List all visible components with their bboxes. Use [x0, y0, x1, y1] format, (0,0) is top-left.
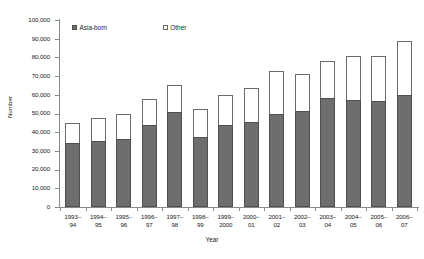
x-axis-tick: [366, 207, 367, 211]
bar-segment-other[interactable]: [65, 123, 80, 144]
x-axis-tick: [86, 207, 87, 211]
bar-segment-other[interactable]: [193, 109, 208, 137]
bar-stack[interactable]: [116, 114, 131, 207]
bar-stack[interactable]: [346, 56, 361, 207]
bar-segment-asia-born[interactable]: [91, 141, 106, 207]
bar-segment-other[interactable]: [116, 114, 131, 139]
x-axis-tick-label: 2006– 07: [387, 213, 421, 229]
bar-stack[interactable]: [193, 109, 208, 207]
bar-segment-asia-born[interactable]: [142, 125, 157, 207]
bar-segment-other[interactable]: [269, 71, 284, 113]
bar-stack[interactable]: [142, 99, 157, 207]
bar-stack[interactable]: [269, 71, 284, 207]
x-axis-tick: [213, 207, 214, 211]
x-axis-tick: [417, 207, 418, 211]
bar-segment-asia-born[interactable]: [346, 100, 361, 207]
bar-segment-other[interactable]: [397, 41, 412, 95]
bar-segment-asia-born[interactable]: [295, 111, 310, 207]
bar-segment-asia-born[interactable]: [371, 101, 386, 207]
y-axis-tick-label: 80,000: [4, 54, 50, 60]
bar-series-group: [60, 20, 417, 207]
y-axis-tick-label: 40,000: [4, 129, 50, 135]
bar-segment-other[interactable]: [320, 61, 335, 97]
y-axis-tick-label: 90,000: [4, 36, 50, 42]
x-axis-tick: [264, 207, 265, 211]
x-axis-tick: [315, 207, 316, 211]
bar-segment-asia-born[interactable]: [65, 143, 80, 207]
y-axis-tick-label: 50,000: [4, 110, 50, 116]
bar-segment-other[interactable]: [91, 118, 106, 140]
bar-stack[interactable]: [397, 41, 412, 207]
bar-segment-other[interactable]: [371, 56, 386, 101]
bar-segment-asia-born[interactable]: [193, 137, 208, 207]
x-axis-tick: [111, 207, 112, 211]
bar-stack[interactable]: [65, 123, 80, 207]
bar-segment-other[interactable]: [346, 56, 361, 100]
y-axis-tick-label: 70,000: [4, 73, 50, 79]
x-axis-tick: [60, 207, 61, 211]
x-axis-tick: [239, 207, 240, 211]
bar-segment-other[interactable]: [244, 88, 259, 122]
bar-segment-asia-born[interactable]: [244, 122, 259, 207]
bar-stack[interactable]: [91, 118, 106, 207]
x-axis-title: Year: [0, 236, 424, 243]
chart-container: Asia-born Other Number 100,00090,00080,0…: [0, 0, 424, 259]
bar-segment-other[interactable]: [218, 95, 233, 125]
y-axis-tick-label: 10,000: [4, 185, 50, 191]
bar-stack[interactable]: [167, 85, 182, 207]
bar-stack[interactable]: [218, 95, 233, 207]
bar-segment-asia-born[interactable]: [116, 139, 131, 207]
bar-segment-asia-born[interactable]: [269, 114, 284, 208]
y-axis-tick-label: 30,000: [4, 148, 50, 154]
y-axis-tick-label: 60,000: [4, 92, 50, 98]
bar-stack[interactable]: [320, 61, 335, 207]
x-axis-tick: [392, 207, 393, 211]
bar-stack[interactable]: [244, 88, 259, 207]
bar-segment-other[interactable]: [142, 99, 157, 125]
bar-segment-asia-born[interactable]: [320, 98, 335, 207]
bar-segment-other[interactable]: [295, 74, 310, 110]
y-axis-tick-label: 20,000: [4, 166, 50, 172]
y-axis-tick-label: 100,000: [4, 17, 50, 23]
x-axis-tick: [188, 207, 189, 211]
bar-segment-asia-born[interactable]: [167, 112, 182, 207]
y-axis-tick-label: 0: [4, 204, 50, 210]
bar-stack[interactable]: [295, 74, 310, 207]
x-axis-tick: [290, 207, 291, 211]
x-axis-tick: [162, 207, 163, 211]
bar-segment-asia-born[interactable]: [218, 125, 233, 207]
x-axis-tick: [341, 207, 342, 211]
bar-stack[interactable]: [371, 56, 386, 207]
x-axis-tick: [137, 207, 138, 211]
bar-segment-asia-born[interactable]: [397, 95, 412, 207]
bar-segment-other[interactable]: [167, 85, 182, 112]
